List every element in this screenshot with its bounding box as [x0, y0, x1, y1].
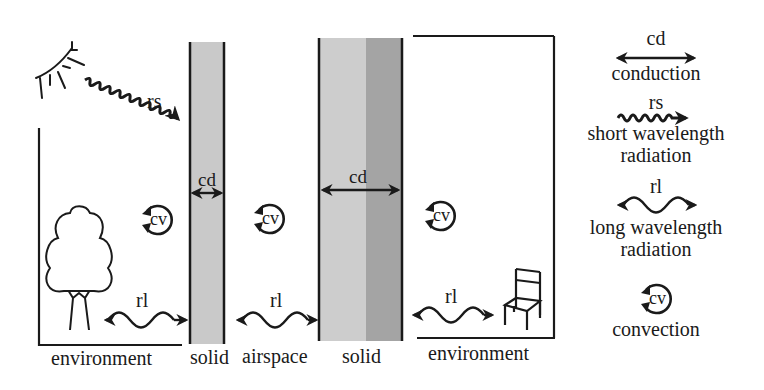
- svg-text:conduction: conduction: [612, 62, 701, 84]
- legend-item-short-wavelength: rs short wavelength radiation: [587, 91, 724, 166]
- zone-labels: environment solid airspace solid environ…: [51, 342, 530, 369]
- short-wave-arrow-icon: [618, 115, 686, 121]
- svg-text:rl: rl: [270, 289, 283, 311]
- convection-loop-left: cv: [142, 206, 172, 234]
- svg-text:cd: cd: [647, 27, 666, 49]
- svg-text:cv: cv: [150, 209, 167, 229]
- legend-item-conduction: cd conduction: [612, 27, 701, 84]
- long-wave-radiation-right: rl: [414, 285, 492, 323]
- long-wave-radiation-left: rl: [106, 289, 186, 328]
- svg-text:cv: cv: [649, 288, 666, 308]
- svg-text:short wavelength: short wavelength: [587, 122, 724, 145]
- svg-text:cv: cv: [433, 205, 450, 225]
- cd-thin-label: cd: [198, 169, 216, 190]
- long-wave-radiation-airspace: rl: [238, 289, 316, 328]
- svg-text:radiation: radiation: [620, 238, 691, 260]
- heat-transfer-diagram: rs cv rl cd cv rl: [0, 0, 764, 390]
- rs-label: rs: [147, 90, 162, 112]
- svg-text:rl: rl: [650, 175, 663, 197]
- label-environment-right: environment: [428, 342, 530, 364]
- cd-thick-label: cd: [349, 166, 367, 187]
- svg-text:radiation: radiation: [620, 144, 691, 166]
- sun-icon: [36, 42, 84, 98]
- zone-environment-right: [413, 36, 555, 338]
- svg-text:long wavelength: long wavelength: [590, 216, 723, 239]
- convection-loop-airspace: cv: [254, 205, 284, 233]
- svg-text:cv: cv: [262, 208, 279, 228]
- short-wave-radiation-arrow: rs: [85, 78, 178, 119]
- tree-icon: [46, 206, 111, 330]
- convection-loop-right: cv: [425, 202, 455, 230]
- svg-text:rl: rl: [445, 285, 458, 307]
- legend-item-convection: cv convection: [612, 285, 700, 340]
- svg-text:rl: rl: [136, 289, 149, 311]
- legend-item-long-wavelength: rl long wavelength radiation: [590, 175, 723, 260]
- zone-solid-thin: cd: [190, 42, 224, 344]
- long-wave-arrow-icon: [619, 198, 695, 213]
- convection-loop-icon: cv: [641, 285, 671, 313]
- svg-text:rs: rs: [649, 91, 664, 113]
- legend: cd conduction rs short wavelength radiat…: [587, 27, 724, 340]
- zone-solid-thick: cd: [319, 38, 402, 341]
- label-airspace: airspace: [242, 345, 308, 368]
- label-solid-2: solid: [342, 345, 381, 367]
- label-environment-left: environment: [51, 347, 153, 369]
- svg-text:convection: convection: [612, 318, 700, 340]
- chair-icon: [505, 269, 540, 330]
- label-solid-1: solid: [190, 346, 229, 368]
